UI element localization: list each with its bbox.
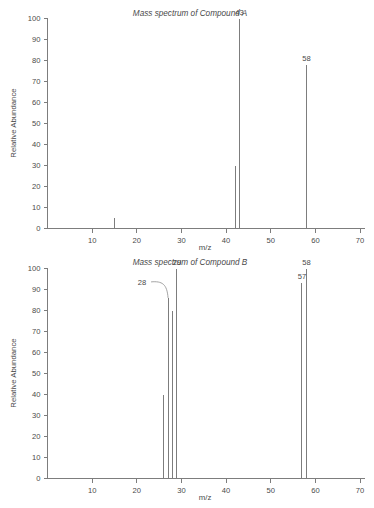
peak-label: 58	[302, 258, 310, 267]
y-tick-label: 10	[32, 453, 40, 462]
x-tick-label: 70	[356, 486, 364, 495]
y-tick-label: 60	[32, 348, 40, 357]
x-axis-title-a: m/z	[199, 243, 212, 252]
x-tick-label: 60	[311, 486, 319, 495]
y-tick-label: 50	[32, 119, 40, 128]
y-tick-label: 80	[32, 306, 40, 315]
axes-a	[48, 19, 365, 229]
x-tick-label: 50	[267, 486, 275, 495]
y-tick-label: 70	[32, 327, 40, 336]
y-tick-label: 0	[36, 474, 40, 483]
y-tick-label: 0	[36, 224, 40, 233]
y-tick-label: 40	[32, 390, 40, 399]
mass-spectra-figure: Mass spectrum of Compound A 010203040506…	[0, 0, 374, 508]
peak-label: 58	[302, 54, 310, 63]
chart-title-a: Mass spectrum of Compound A	[133, 9, 248, 18]
chart-title-b: Mass spectrum of Compound B	[133, 258, 248, 267]
y-tick-label: 30	[32, 161, 40, 170]
x-axis-ticks-b: 10203040506070	[88, 479, 364, 495]
x-tick-label: 40	[222, 486, 230, 495]
x-tick-label: 50	[267, 236, 275, 245]
x-tick-label: 60	[311, 236, 319, 245]
y-tick-label: 30	[32, 411, 40, 420]
spectrum-plot-a: Mass spectrum of Compound A 010203040506…	[0, 0, 374, 254]
y-tick-label: 90	[32, 35, 40, 44]
x-tick-label: 70	[356, 236, 364, 245]
y-axis-title-b: Relative Abundance	[9, 338, 18, 407]
y-axis-ticks-a: 0102030405060708090100	[28, 14, 48, 233]
x-tick-label: 20	[133, 236, 141, 245]
y-axis-ticks-b: 0102030405060708090100	[28, 264, 48, 483]
y-tick-label: 20	[32, 182, 40, 191]
peak-lines-b	[164, 269, 307, 479]
peak-lines-a	[114, 19, 306, 229]
peak-label: 28	[138, 278, 146, 287]
y-tick-label: 60	[32, 98, 40, 107]
x-tick-label: 30	[177, 236, 185, 245]
axis-frame-b	[48, 269, 365, 479]
peak-leader-lines-b	[151, 282, 168, 298]
x-tick-label: 10	[88, 486, 96, 495]
y-tick-label: 80	[32, 56, 40, 65]
y-tick-label: 100	[28, 264, 41, 273]
y-axis-title-a: Relative Abundance	[9, 88, 18, 157]
y-tick-label: 100	[28, 14, 41, 23]
spectrum-panel-compound-b: Mass spectrum of Compound B 010203040506…	[0, 254, 374, 508]
x-axis-ticks-a: 10203040506070	[88, 229, 364, 245]
peak-label: 43	[235, 8, 243, 17]
x-tick-label: 40	[222, 236, 230, 245]
peak-label: 29	[173, 258, 181, 267]
peak-label: 57	[298, 272, 306, 281]
peak-leader-line	[151, 282, 168, 298]
y-tick-label: 10	[32, 203, 40, 212]
y-tick-label: 90	[32, 285, 40, 294]
y-tick-label: 50	[32, 369, 40, 378]
y-tick-label: 70	[32, 77, 40, 86]
spectrum-panel-compound-a: Mass spectrum of Compound A 010203040506…	[0, 0, 374, 254]
y-tick-label: 20	[32, 432, 40, 441]
spectrum-plot-b: Mass spectrum of Compound B 010203040506…	[0, 254, 374, 508]
axis-frame-a	[48, 19, 365, 229]
x-tick-label: 30	[177, 486, 185, 495]
x-tick-label: 20	[133, 486, 141, 495]
y-tick-label: 40	[32, 140, 40, 149]
x-axis-title-b: m/z	[199, 493, 212, 502]
axes-b	[48, 269, 365, 479]
x-tick-label: 10	[88, 236, 96, 245]
